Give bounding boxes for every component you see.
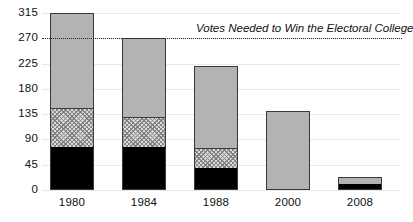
bar-2000 — [266, 111, 310, 190]
bar-2000-segment-gray — [267, 112, 309, 189]
threshold-line-270 — [42, 38, 402, 39]
bar-1984-segment-gray — [123, 39, 165, 117]
bar-2008-segment-gray — [339, 178, 381, 185]
bar-1988 — [194, 66, 238, 190]
bar-1984-segment-black — [123, 147, 165, 189]
bar-1980-segment-gray — [51, 14, 93, 108]
bar-2008-segment-black — [339, 184, 381, 189]
bar-1984-segment-hatched — [123, 117, 165, 146]
threshold-annotation-label: Votes Needed to Win the Electoral Colleg… — [196, 22, 413, 34]
bar-2008 — [338, 177, 382, 191]
bar-1984 — [122, 38, 166, 190]
x-tick-label-2008: 2008 — [338, 196, 382, 208]
bar-1980 — [50, 13, 94, 190]
x-tick-label-1988: 1988 — [194, 196, 238, 208]
gridline-315 — [42, 13, 400, 14]
bar-1980-segment-hatched — [51, 108, 93, 147]
x-tick-label-1984: 1984 — [122, 196, 166, 208]
bar-1980-segment-black — [51, 147, 93, 189]
gridline-0 — [42, 190, 400, 191]
gridline-225 — [42, 64, 400, 65]
x-tick-label-2000: 2000 — [266, 196, 310, 208]
x-tick-label-1980: 1980 — [50, 196, 94, 208]
bar-1988-segment-hatched — [195, 148, 237, 169]
bar-1988-segment-gray — [195, 67, 237, 147]
bar-1988-segment-black — [195, 168, 237, 189]
